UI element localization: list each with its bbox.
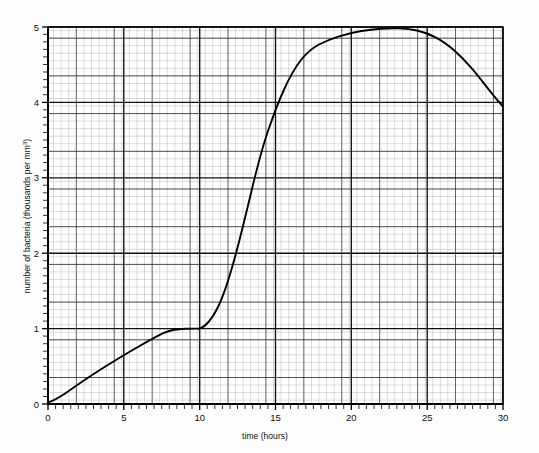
y-tick-label: 2	[34, 248, 39, 259]
y-axis-title: number of bacteria (thousands per mm3)	[21, 139, 33, 294]
bacteria-growth-chart: 0 5 10 15 20 25 30 0 1 2 3 4 5 time (hou…	[0, 0, 539, 453]
x-tick-label: 20	[346, 412, 357, 423]
y-axis-title-end: )	[22, 139, 32, 142]
x-tick-label: 0	[45, 412, 50, 423]
y-tick-label: 5	[34, 22, 39, 33]
y-axis-title-group: number of bacteria (thousands per mm3)	[21, 139, 33, 294]
x-tick-label: 30	[498, 412, 509, 423]
x-tick-label: 5	[121, 412, 126, 423]
x-axis-tick-labels: 0 5 10 15 20 25 30	[45, 412, 508, 423]
y-tick-label: 0	[34, 399, 39, 410]
y-tick-label: 4	[34, 97, 39, 108]
y-tick-label: 1	[34, 323, 39, 334]
x-axis-title: time (hours)	[242, 431, 288, 441]
x-tick-label: 25	[422, 412, 433, 423]
y-tick-label: 3	[34, 172, 39, 183]
graph-figure: 0 5 10 15 20 25 30 0 1 2 3 4 5 time (hou…	[0, 0, 539, 453]
x-tick-label: 10	[194, 412, 205, 423]
x-tick-label: 15	[270, 412, 281, 423]
y-axis-title-main: number of bacteria (thousands per mm	[22, 145, 32, 293]
y-axis-tick-labels: 0 1 2 3 4 5	[34, 22, 39, 410]
